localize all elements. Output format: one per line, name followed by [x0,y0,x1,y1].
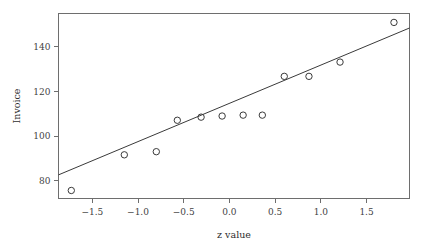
x-axis-label: z value [217,229,251,240]
qq-plot-figure: −1.5−1.0−0.50.00.51.01.5 80100120140 z v… [0,0,422,245]
y-tick-label: 100 [33,131,50,141]
x-tick-label: −1.0 [127,207,149,217]
plot-canvas: −1.5−1.0−0.50.00.51.01.5 80100120140 z v… [0,0,422,245]
x-tick-label: 0.5 [268,207,283,217]
y-tick-label: 120 [33,87,50,97]
y-axis-label: Invoice [11,88,22,123]
y-tick-label: 80 [39,176,51,186]
x-tick-label: 1.5 [359,207,374,217]
x-tick-label: −1.5 [81,207,103,217]
y-tick-label: 140 [33,42,50,52]
x-tick-label: 0.0 [222,207,237,217]
x-tick-label: 1.0 [314,207,329,217]
x-tick-label: −0.5 [173,207,195,217]
